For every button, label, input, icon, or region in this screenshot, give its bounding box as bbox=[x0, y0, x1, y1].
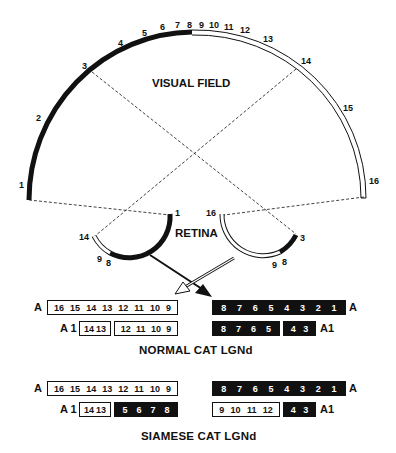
cell: 3 bbox=[303, 324, 308, 334]
cell: 7 bbox=[236, 324, 241, 334]
siamese-left-A1-box-1: 14 13 bbox=[79, 402, 111, 417]
cell: 5 bbox=[269, 303, 274, 313]
projection-lines bbox=[29, 69, 364, 236]
normal-left-A1-box-2: 12 11 10 9 bbox=[114, 321, 178, 336]
normal-right-A-label: A bbox=[349, 300, 357, 315]
cell: 13 bbox=[102, 384, 112, 394]
cell: 7 bbox=[237, 303, 242, 313]
left-retina-label-1: 1 bbox=[175, 208, 180, 218]
cell: 12 bbox=[118, 384, 128, 394]
cell: 8 bbox=[221, 384, 226, 394]
siamese-left-A-box: 16 15 14 13 12 11 10 9 bbox=[47, 381, 178, 396]
cell: 14 bbox=[86, 303, 96, 313]
left-retina-label-14: 14 bbox=[79, 232, 89, 242]
cell: 2 bbox=[316, 303, 321, 313]
cell: 11 bbox=[134, 384, 144, 394]
siamese-left-A1-box-2: 5 6 7 8 bbox=[114, 402, 178, 417]
cell: 10 bbox=[150, 384, 160, 394]
siamese-right-A-label: A bbox=[349, 381, 357, 396]
cell: 12 bbox=[263, 405, 273, 415]
vf-label-15: 15 bbox=[343, 103, 353, 113]
cell: 4 bbox=[284, 303, 289, 313]
cell: 8 bbox=[221, 324, 226, 334]
vf-label-5: 5 bbox=[142, 28, 147, 38]
cell: 12 bbox=[121, 324, 131, 334]
cell: 11 bbox=[247, 405, 257, 415]
normal-right-A1-box-1: 8 7 6 5 bbox=[212, 321, 280, 336]
right-retina-label-3: 3 bbox=[300, 233, 305, 243]
siamese-right-A1-box-2: 4 3 bbox=[283, 402, 316, 417]
vf-label-10: 10 bbox=[209, 20, 219, 30]
visual-field-title: VISUAL FIELD bbox=[152, 77, 230, 89]
cell: 9 bbox=[166, 303, 171, 313]
normal-left-A1-box-1: 14 13 bbox=[79, 321, 111, 336]
cell: 8 bbox=[164, 405, 169, 415]
cell: 2 bbox=[316, 384, 321, 394]
cell: 13 bbox=[102, 303, 112, 313]
right-retina-label-8: 8 bbox=[282, 257, 287, 267]
visual-field-arc-black bbox=[29, 32, 192, 200]
vf-label-7: 7 bbox=[175, 20, 180, 30]
cell: 3 bbox=[303, 405, 308, 415]
cell: 16 bbox=[54, 384, 64, 394]
vf-label-3: 3 bbox=[82, 61, 87, 71]
cell: 16 bbox=[54, 303, 64, 313]
cell: 1 bbox=[332, 384, 337, 394]
cell: 9 bbox=[166, 384, 171, 394]
vf-label-16: 16 bbox=[369, 176, 379, 186]
cell: 10 bbox=[151, 324, 161, 334]
cell: 4 bbox=[284, 384, 289, 394]
vf-label-6: 6 bbox=[160, 22, 165, 32]
cell: 9 bbox=[166, 324, 171, 334]
siamese-right-A-box: 8 7 6 5 4 3 2 1 bbox=[212, 381, 346, 396]
cell: 6 bbox=[251, 324, 256, 334]
right-retina-label-16: 16 bbox=[206, 208, 216, 218]
siamese-left-A-label: A bbox=[34, 381, 42, 396]
vf-label-1: 1 bbox=[19, 180, 24, 190]
vf-label-14: 14 bbox=[301, 56, 311, 66]
retina-title: RETINA bbox=[175, 227, 218, 239]
cell: 7 bbox=[237, 384, 242, 394]
siamese-right-A1-box-1: 9 10 11 12 bbox=[212, 402, 280, 417]
cell: 13 bbox=[96, 324, 106, 334]
normal-caption: NORMAL CAT LGNd bbox=[139, 344, 253, 356]
cell: 14 bbox=[84, 405, 94, 415]
cell: 5 bbox=[122, 405, 127, 415]
vf-label-9: 9 bbox=[199, 20, 204, 30]
vf-label-2: 2 bbox=[36, 113, 41, 123]
cell: 3 bbox=[300, 303, 305, 313]
cell: 5 bbox=[269, 384, 274, 394]
cell: 14 bbox=[86, 384, 96, 394]
cell: 15 bbox=[70, 303, 80, 313]
cell: 3 bbox=[300, 384, 305, 394]
cell: 7 bbox=[150, 405, 155, 415]
cell: 6 bbox=[253, 303, 258, 313]
left-retina-label-9: 9 bbox=[97, 254, 102, 264]
right-retina-label-9: 9 bbox=[272, 260, 277, 270]
visual-field-arc-white-outer bbox=[192, 30, 366, 198]
normal-left-A-box: 16 15 14 13 12 11 10 9 bbox=[47, 300, 178, 315]
cell: 8 bbox=[221, 303, 226, 313]
normal-right-A1-box-2: 4 3 bbox=[283, 321, 316, 336]
vf-label-8: 8 bbox=[187, 20, 192, 30]
right-retina bbox=[222, 214, 296, 256]
cell: 6 bbox=[253, 384, 258, 394]
cell: 6 bbox=[136, 405, 141, 415]
vf-label-11: 11 bbox=[224, 22, 234, 32]
siamese-right-A1-label: A1 bbox=[320, 402, 334, 417]
cell: 9 bbox=[219, 405, 224, 415]
vf-label-12: 12 bbox=[240, 25, 250, 35]
vf-label-4: 4 bbox=[118, 38, 123, 48]
cell: 4 bbox=[291, 324, 296, 334]
left-retina-label-8: 8 bbox=[106, 258, 111, 268]
cell: 5 bbox=[266, 324, 271, 334]
left-retina bbox=[94, 214, 170, 258]
normal-left-A1-label: A 1 bbox=[60, 321, 77, 336]
cell: 10 bbox=[231, 405, 241, 415]
normal-right-A-box: 8 7 6 5 4 3 2 1 bbox=[212, 300, 346, 315]
cell: 4 bbox=[291, 405, 296, 415]
cell: 13 bbox=[96, 405, 106, 415]
visual-field-arc-white-inner bbox=[192, 35, 361, 198]
siamese-caption: SIAMESE CAT LGNd bbox=[141, 430, 256, 442]
siamese-left-A1-label: A 1 bbox=[60, 402, 77, 417]
